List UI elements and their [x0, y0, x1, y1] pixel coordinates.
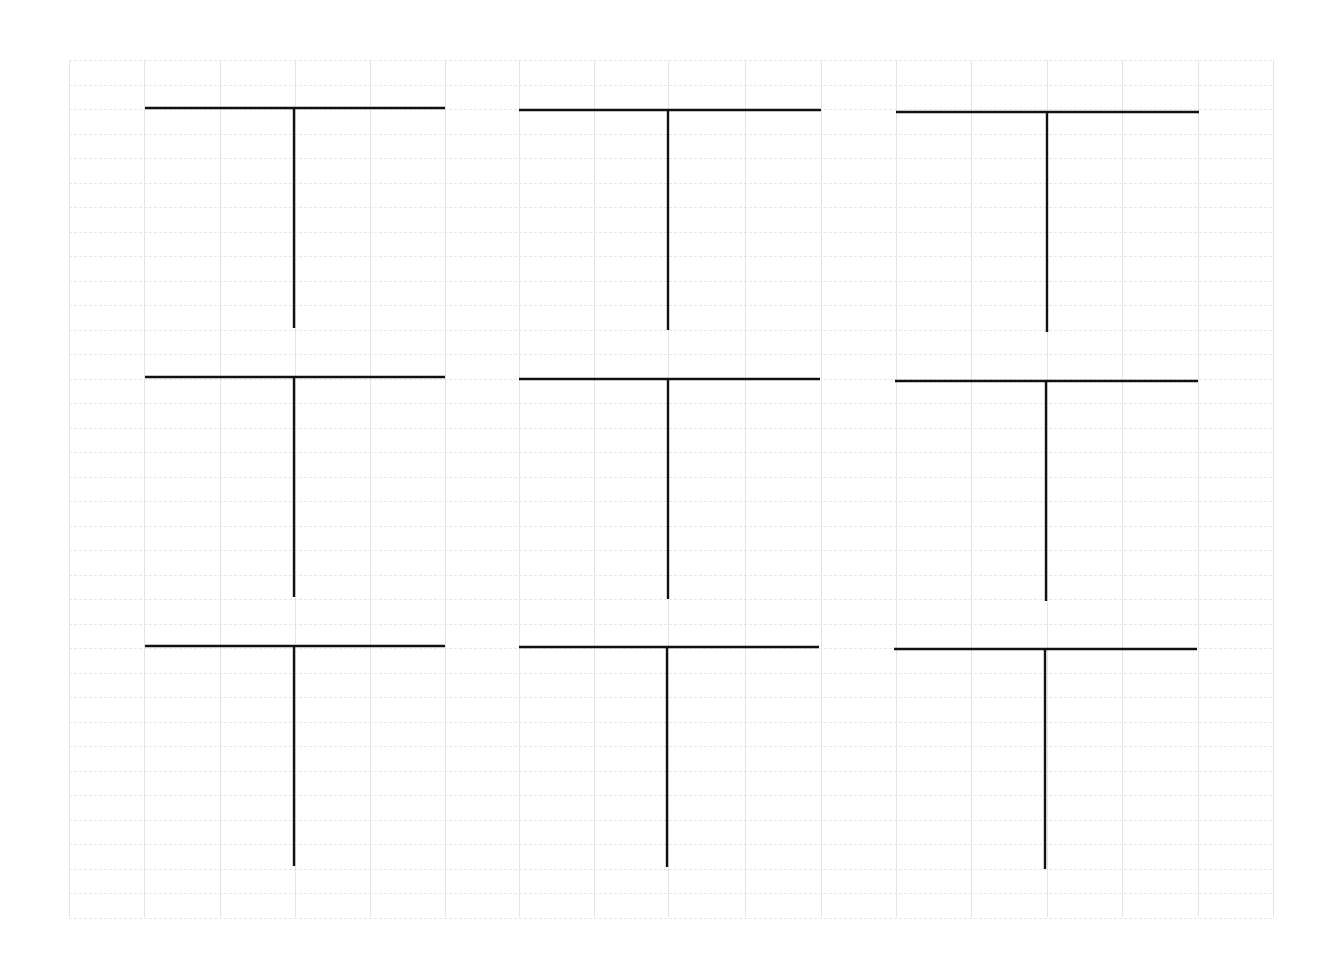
graph-paper-page: [0, 0, 1336, 964]
t-shape-r3-c1: [145, 646, 445, 866]
t-templates: [145, 108, 1199, 869]
grid-lines: [69, 60, 1274, 919]
t-shape-r2-c2: [519, 379, 820, 599]
t-shape-r2-c3: [895, 381, 1198, 601]
t-shape-r3-c3: [894, 649, 1197, 869]
t-shape-r1-c3: [896, 112, 1199, 332]
t-shape-r1-c2: [519, 110, 821, 330]
t-shape-r1-c1: [145, 108, 445, 328]
graph-paper-canvas: [0, 0, 1336, 964]
t-shape-r2-c1: [145, 377, 445, 597]
